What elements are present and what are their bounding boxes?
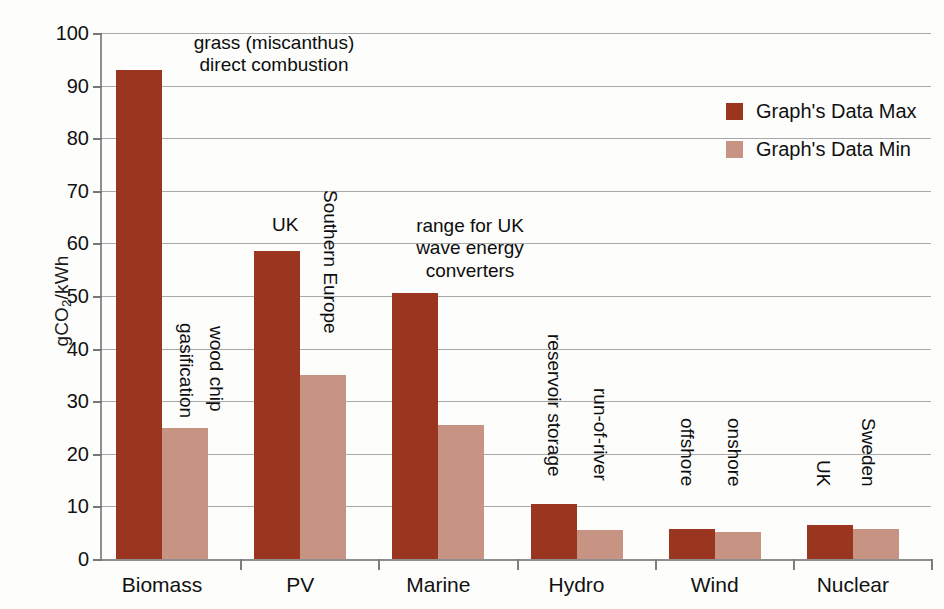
category-label-pv: PV (286, 573, 314, 597)
y-tick-mark (93, 559, 102, 561)
y-tick-label: 90 (67, 74, 89, 97)
legend-label-min: Graph's Data Min (756, 138, 911, 161)
category-label-wind: Wind (691, 573, 739, 597)
bar-hydro-max (531, 504, 577, 559)
annotation-nuclear-uk: UK (814, 460, 833, 486)
annotation-biomass-top: grass (miscanthus) direct combustion (194, 32, 355, 77)
category-label-biomass: Biomass (122, 573, 203, 597)
x-tick-mark (517, 559, 519, 570)
bar-nuclear-max (807, 525, 853, 559)
annotation-hydro-reservoir-storage: reservoir storage (545, 334, 564, 477)
bar-group-hydro (517, 33, 655, 559)
y-tick-label: 40 (67, 337, 89, 360)
bar-marine-max (392, 293, 438, 559)
y-tick-mark (93, 454, 102, 456)
y-tick-label: 60 (67, 232, 89, 255)
y-tick-label: 50 (67, 285, 89, 308)
y-tick-mark (93, 243, 102, 245)
y-tick-label: 10 (67, 495, 89, 518)
category-label-marine: Marine (406, 573, 470, 597)
bar-wind-max (669, 529, 715, 560)
bar-wind-min (715, 532, 761, 559)
y-tick-mark (93, 191, 102, 193)
bar-chart: gCO2/kWh 0102030405060708090100 BiomassP… (0, 0, 944, 609)
annotation-biomass-wood-chip: wood chip (207, 326, 226, 412)
y-tick-mark (93, 349, 102, 351)
y-tick-label: 0 (78, 548, 89, 571)
bar-group-biomass (102, 33, 240, 559)
y-tick-label: 30 (67, 390, 89, 413)
annotation-pv-uk: UK (272, 214, 298, 236)
legend-swatch-max-icon (726, 103, 743, 120)
bar-pv-max (254, 251, 300, 559)
bar-group-pv (240, 33, 378, 559)
y-tick-mark (93, 138, 102, 140)
y-tick-mark (93, 296, 102, 298)
bar-biomass-min (162, 428, 208, 560)
annotation-biomass-gasification: gasification (177, 323, 196, 418)
annotation-nuclear-sweden: Sweden (859, 418, 878, 487)
y-tick-mark (93, 506, 102, 508)
y-tick-mark (93, 401, 102, 403)
y-tick-label: 20 (67, 442, 89, 465)
legend-swatch-min-icon (726, 141, 743, 158)
category-label-nuclear: Nuclear (817, 573, 889, 597)
annotation-marine-top: range for UK wave energy converters (416, 215, 524, 282)
x-tick-mark (931, 559, 933, 570)
y-tick-label: 100 (56, 22, 89, 45)
legend-item-max: Graph's Data Max (726, 100, 917, 122)
y-tick-mark (93, 33, 102, 35)
x-tick-mark (655, 559, 657, 570)
y-tick-label: 80 (67, 127, 89, 150)
legend-item-min: Graph's Data Min (726, 138, 917, 160)
legend: Graph's Data Max Graph's Data Min (726, 100, 917, 176)
y-tick-mark (93, 86, 102, 88)
annotation-hydro-run-of-river: run-of-river (591, 388, 610, 481)
bar-nuclear-min (853, 529, 899, 559)
bar-pv-min (300, 375, 346, 559)
x-tick-mark (240, 559, 242, 570)
category-label-hydro: Hydro (548, 573, 604, 597)
x-tick-mark (378, 559, 380, 570)
annotation-wind-offshore: offshore (678, 418, 697, 486)
bar-group-marine (378, 33, 516, 559)
x-tick-mark (793, 559, 795, 570)
annotation-pv-southern-europe: Southern Europe (321, 190, 340, 334)
y-tick-label: 70 (67, 179, 89, 202)
annotation-wind-onshore: onshore (725, 418, 744, 487)
legend-label-max: Graph's Data Max (756, 100, 917, 123)
bar-marine-min (438, 425, 484, 559)
bar-hydro-min (577, 530, 623, 559)
bar-biomass-max (116, 70, 162, 559)
